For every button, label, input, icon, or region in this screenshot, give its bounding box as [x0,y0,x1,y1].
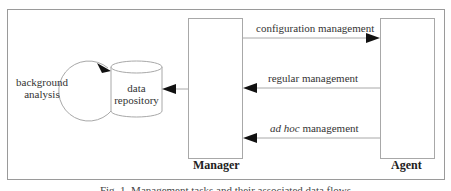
background-analysis-label: background analysis [16,76,68,100]
config-management-label: configuration management [256,22,374,34]
adhoc-management-label: ad hoc management [270,122,359,134]
manager-label: Manager [193,158,240,173]
loop-arrowhead-icon [97,63,111,73]
regular-arrowhead-icon [243,83,257,93]
agent-label: Agent [391,158,422,173]
config-arrowhead-icon [366,33,380,43]
store-arrowhead-icon [162,84,176,94]
regular-management-label: regular management [268,72,358,84]
adhoc-arrowhead-icon [243,133,257,143]
data-repository-label: data repository [113,82,160,106]
figure-caption: Fig. 1. Management tasks and their assoc… [0,184,451,191]
